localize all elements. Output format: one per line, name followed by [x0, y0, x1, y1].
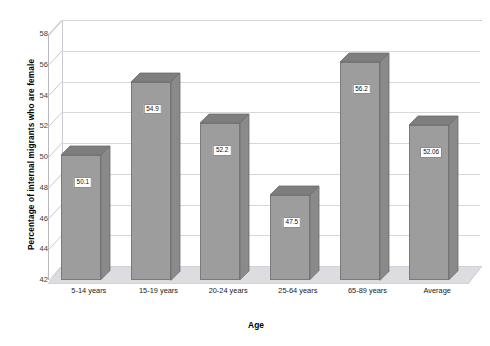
y-axis-tick-label: 48 — [20, 184, 48, 192]
bar-value-label: 56.2 — [352, 84, 370, 94]
y-axis-tick-label: 54 — [20, 92, 48, 100]
x-axis-tick-label: 15-19 years — [139, 286, 178, 295]
bar-3d-faces — [61, 146, 110, 280]
bar[interactable] — [270, 195, 310, 280]
x-axis-title-text: Age — [248, 320, 264, 330]
y-axis-tick-label: 42 — [20, 276, 48, 284]
bar-3d-faces — [270, 186, 319, 280]
x-axis-tick-label: 20-24 years — [209, 286, 248, 295]
x-axis-tick-labels: 5-14 years15-19 years20-24 years25-64 ye… — [48, 286, 482, 300]
y-axis-tick-label: 46 — [20, 215, 48, 223]
y-axis-tick-label: 58 — [20, 30, 48, 38]
bar-3d-faces — [200, 114, 249, 280]
bar[interactable] — [340, 62, 380, 280]
bar-series: 50.154.952.247.556.252.06 — [48, 34, 466, 280]
y-axis-tick-label: 44 — [20, 245, 48, 253]
gridline — [62, 20, 480, 21]
x-axis-tick-label: 5-14 years — [71, 286, 106, 295]
bar-value-label: 47.5 — [283, 217, 301, 227]
y-axis-tick-label: 56 — [20, 61, 48, 69]
y-axis-ticks: 424446485052545658 — [14, 0, 48, 300]
bar-chart: Percentage of internal migrants who are … — [0, 0, 490, 346]
x-axis-tick-label: Average — [423, 286, 450, 295]
bar-value-label: 52.06 — [420, 147, 442, 157]
bar[interactable] — [61, 155, 101, 280]
bar-value-label: 52.2 — [213, 145, 231, 155]
bar-3d-faces — [409, 116, 458, 280]
bar-value-label: 50.1 — [74, 177, 92, 187]
bar-value-label: 54.9 — [143, 104, 161, 114]
x-axis-title: Age — [0, 320, 490, 330]
x-axis-tick-label: 65-89 years — [348, 286, 387, 295]
y-axis-tick-label: 52 — [20, 122, 48, 130]
y-axis-tick-label: 50 — [20, 153, 48, 161]
x-axis-tick-label: 25-64 years — [278, 286, 317, 295]
